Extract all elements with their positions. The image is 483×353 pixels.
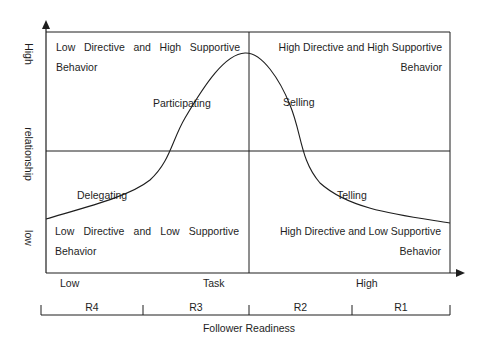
quadrant-top-left-line1: Low Directive and High Supportive [56, 37, 240, 57]
quadrant-top-left: Low Directive and High Supportive Behavi… [56, 37, 240, 77]
curve-label-telling: Telling [337, 189, 367, 202]
quadrant-bottom-right-line1: High Directive and Low Supportive [258, 221, 441, 241]
y-axis-low-label: low [23, 225, 35, 251]
curve-label-delegating: Delegating [77, 189, 127, 202]
readiness-segment-r1: R1 [352, 301, 450, 313]
quadrant-top-right-line2: Behavior [258, 57, 442, 77]
readiness-title: Follower Readiness [149, 322, 349, 334]
readiness-segment-r3: R3 [143, 301, 249, 313]
y-axis-arrow-icon [42, 20, 50, 29]
readiness-segment-r4: R4 [41, 301, 143, 313]
quadrant-top-right: High Directive and High Supportive Behav… [258, 37, 442, 77]
quadrant-bottom-left-line2: Behavior [55, 245, 96, 257]
readiness-segment-r2: R2 [249, 301, 352, 313]
x-axis-title: Task [203, 277, 225, 290]
y-axis-title: relationship [23, 122, 35, 186]
x-axis-low-label: Low [60, 277, 79, 290]
quadrant-bottom-right-line2: Behavior [258, 241, 441, 261]
quadrant-bottom-left-line1: Low Directive and Low Supportive [55, 221, 239, 241]
y-axis-high-label: High [23, 41, 35, 67]
x-axis-high-label: High [356, 277, 378, 290]
curve-label-selling: Selling [283, 96, 315, 109]
x-axis-arrow-icon [456, 269, 465, 277]
quadrant-top-right-line1: High Directive and High Supportive [258, 37, 442, 57]
quadrant-bottom-left: Low Directive and Low Supportive Behavio… [55, 221, 239, 261]
quadrant-bottom-right: High Directive and Low Supportive Behavi… [258, 221, 441, 261]
curve-label-participating: Participating [153, 97, 211, 110]
quadrant-top-left-line2: Behavior [56, 61, 97, 73]
